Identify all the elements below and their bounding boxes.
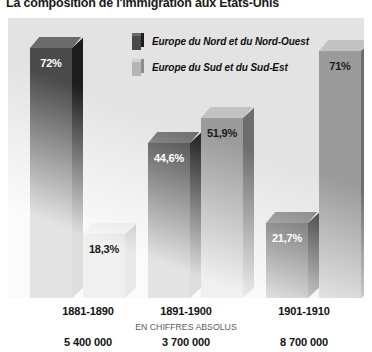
legend-item-north: Europe du Nord et du Nord-Ouest bbox=[132, 28, 309, 54]
legend-label: Europe du Nord et du Nord-Ouest bbox=[152, 36, 309, 47]
bar-front-face bbox=[319, 51, 361, 298]
bar-front-face bbox=[148, 143, 190, 298]
bar-1881-1890-north: 72% bbox=[30, 48, 72, 298]
period-label-3: 1901-1910 bbox=[224, 305, 372, 317]
bar-value-label: 72% bbox=[30, 57, 72, 69]
bar-side-face bbox=[72, 38, 83, 298]
bar-value-label: 21,7% bbox=[266, 232, 308, 244]
chart-legend: Europe du Nord et du Nord-Ouest Europe d… bbox=[132, 28, 309, 80]
bar-front-face bbox=[30, 48, 72, 298]
bar-value-label: 51,9% bbox=[201, 127, 243, 139]
bar-1881-1890-south: 18,3% bbox=[83, 234, 125, 298]
legend-label: Europe du Sud et du Sud-Est bbox=[152, 62, 288, 73]
legend-item-south: Europe du Sud et du Sud-Est bbox=[132, 54, 309, 80]
bar-1901-1910-south: 71% bbox=[319, 51, 361, 298]
bar-side-face bbox=[125, 224, 136, 298]
bar-side-face bbox=[308, 213, 319, 298]
bar-side-face bbox=[361, 41, 364, 298]
page-title: La composition de l'immigration aux État… bbox=[6, 0, 366, 12]
legend-swatch-icon bbox=[132, 33, 143, 50]
bar-1891-1900-south: 51,9% bbox=[201, 118, 243, 298]
bar-value-label: 71% bbox=[319, 60, 361, 72]
absolute-figures-caption: EN CHIFFRES ABSOLUS bbox=[15, 321, 357, 332]
bar-front-face bbox=[201, 118, 243, 298]
legend-swatch-icon bbox=[132, 59, 143, 76]
bar-value-label: 44,6% bbox=[148, 152, 190, 164]
bar-value-label: 18,3% bbox=[83, 243, 125, 255]
bar-1901-1910-north: 21,7% bbox=[266, 223, 308, 298]
bar-side-face bbox=[190, 133, 201, 298]
bar-top-face bbox=[319, 40, 364, 51]
bar-side-face bbox=[243, 108, 254, 298]
bar-1891-1900-north: 44,6% bbox=[148, 143, 190, 298]
absolute-figure-3: 8 700 000 bbox=[224, 336, 372, 348]
